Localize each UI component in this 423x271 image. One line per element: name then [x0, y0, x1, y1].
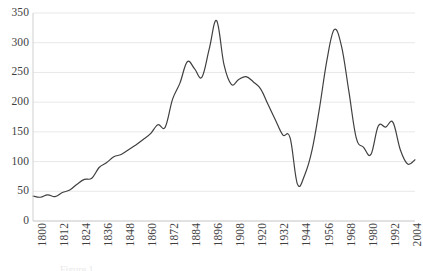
x-tick-label-1956: 1956: [324, 223, 336, 246]
y-tick-label-250: 250: [11, 67, 29, 79]
x-tick-label-1908: 1908: [235, 223, 247, 246]
y-tick-label-0: 0: [23, 215, 29, 227]
x-tick-label-1896: 1896: [213, 223, 225, 246]
x-tick-label-1836: 1836: [103, 223, 115, 246]
x-tick-label-1812: 1812: [59, 223, 71, 246]
y-tick-label-350: 350: [11, 7, 29, 19]
x-tick-label-1980: 1980: [368, 223, 380, 246]
x-tick-label-1860: 1860: [147, 223, 159, 246]
x-tick-label-1992: 1992: [390, 223, 402, 246]
y-axis-tick-labels: 050100150200250300350: [0, 0, 32, 271]
x-tick-label-1872: 1872: [169, 223, 181, 246]
y-tick-label-50: 50: [17, 186, 29, 198]
x-tick-label-1824: 1824: [81, 223, 93, 246]
line-chart-svg: [33, 13, 415, 221]
gridlines: [33, 13, 415, 221]
x-axis-tick-labels: 1800181218241836184818601872188418961908…: [33, 223, 415, 267]
y-tick-label-100: 100: [11, 156, 29, 168]
x-tick-label-1920: 1920: [257, 223, 269, 246]
x-tick-label-1884: 1884: [191, 223, 203, 246]
x-tick-label-1968: 1968: [346, 223, 358, 246]
x-tick-label-1800: 1800: [37, 223, 49, 246]
figure-caption: Figure 1.: [60, 264, 96, 271]
data-series-line: [33, 20, 415, 197]
x-tick-label-1848: 1848: [125, 223, 137, 246]
x-tick-label-1944: 1944: [301, 223, 313, 246]
x-tick-label-2004: 2004: [412, 223, 423, 246]
y-tick-label-200: 200: [11, 96, 29, 108]
y-tick-label-300: 300: [11, 37, 29, 49]
y-tick-label-150: 150: [11, 126, 29, 138]
x-tick-label-1932: 1932: [279, 223, 291, 246]
plot-area: [33, 13, 415, 221]
